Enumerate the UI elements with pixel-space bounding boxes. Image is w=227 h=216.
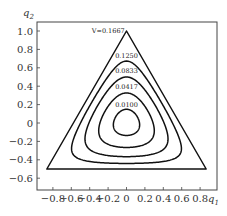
contour-label: 0.0417 <box>115 83 138 91</box>
x-tick-label: 0.8 <box>192 193 208 204</box>
y-tick-label: −0.6 <box>9 173 33 184</box>
y-tick-label: −0.4 <box>9 154 33 165</box>
y-tick-label: 0 <box>27 118 33 129</box>
contour-label: 0.0100 <box>115 101 138 109</box>
contour-line <box>113 109 139 135</box>
y-tick-label: −0.2 <box>9 136 33 147</box>
y-axis-title: q2 <box>23 7 34 21</box>
x-tick-label: −0.2 <box>96 193 120 204</box>
x-tick-label: 0 <box>123 193 129 204</box>
y-tick-label: 0.4 <box>17 81 33 92</box>
contour-chart: 1.00.80.60.40.20−0.2−0.4−0.6 −0.8−0.6−0.… <box>0 0 227 216</box>
y-tick-label: 0.6 <box>17 62 33 73</box>
contour-label: 0.0833 <box>115 67 138 75</box>
y-tick-label: 0.8 <box>17 44 33 55</box>
contour-label: V=0.1667 <box>91 27 125 35</box>
x-tick-label: 0.4 <box>155 193 171 204</box>
x-tick-label: 0.2 <box>137 193 153 204</box>
x-axis-title: q1 <box>208 193 219 207</box>
x-tick-label: 0.6 <box>174 193 190 204</box>
y-axis: 1.00.80.60.40.20−0.2−0.4−0.6 <box>9 26 40 184</box>
y-tick-label: 0.2 <box>17 99 33 110</box>
contour-label: 0.1250 <box>115 52 138 60</box>
y-tick-label: 1.0 <box>17 26 33 37</box>
